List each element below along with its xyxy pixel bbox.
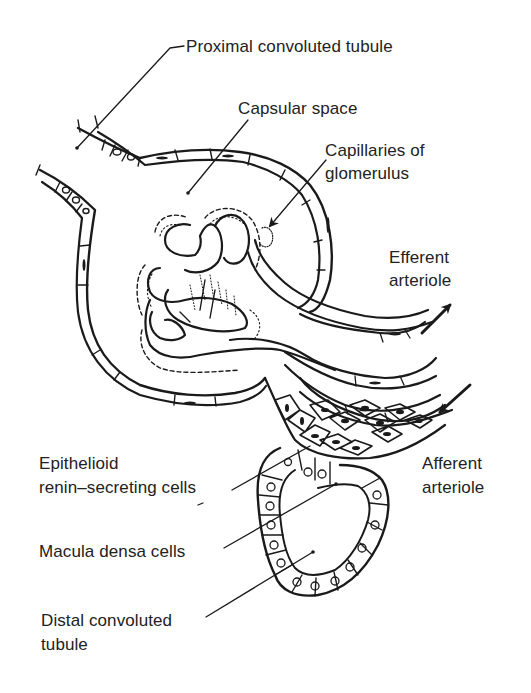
label-afferent-line2: arteriole (422, 477, 484, 499)
label-distal-line2: tubule (41, 634, 88, 656)
label-macula-densa: Macula densa cells (39, 541, 185, 563)
label-epithelioid-line2: renin–secreting cells (39, 477, 196, 499)
flow-arrows (422, 305, 470, 412)
label-capsular-space: Capsular space (238, 98, 358, 120)
label-proximal-convoluted-tubule: Proximal convoluted tubule (186, 36, 393, 58)
label-distal-line1: Distal convoluted (41, 610, 172, 632)
bowman-capsule (36, 116, 332, 406)
afferent-flow-arrow (440, 385, 470, 412)
arterioles (230, 314, 452, 458)
label-efferent-line1: Efferent (389, 247, 449, 269)
label-capillaries-line2: glomerulus (325, 163, 409, 185)
efferent-flow-arrow (422, 305, 450, 333)
label-capillaries-line1: Capillaries of (325, 140, 425, 162)
label-afferent-line1: Afferent (422, 453, 482, 475)
leader-lines (77, 46, 336, 617)
label-epithelioid-line1: Epithelioid (39, 453, 119, 475)
label-efferent-line2: arteriole (389, 270, 451, 292)
glomerulus-capillaries (137, 208, 432, 372)
